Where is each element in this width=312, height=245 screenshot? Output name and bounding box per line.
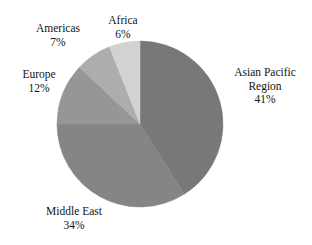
pie-slices-group xyxy=(57,41,223,207)
pie-label-americas-value: 7% xyxy=(25,36,91,50)
pie-label-asian-pacific-region-value: 41% xyxy=(222,93,308,107)
pie-label-africa: Africa 6% xyxy=(95,14,151,41)
pie-label-europe: Europe 12% xyxy=(8,68,70,95)
pie-label-asian-pacific-region-name-line1: Asian Pacific xyxy=(222,66,308,80)
pie-label-asian-pacific-region-name-line2: Region xyxy=(222,80,308,94)
pie-label-africa-value: 6% xyxy=(95,28,151,42)
pie-label-middle-east-value: 34% xyxy=(24,219,124,233)
pie-label-middle-east-name: Middle East xyxy=(24,205,124,219)
pie-label-africa-name: Africa xyxy=(95,14,151,28)
pie-chart-figure: Asian Pacific Region 41% Middle East 34%… xyxy=(0,0,312,245)
pie-label-americas: Americas 7% xyxy=(25,22,91,49)
pie-chart-page: Asian Pacific Region 41% Middle East 34%… xyxy=(0,0,312,245)
pie-label-europe-name: Europe xyxy=(8,68,70,82)
pie-label-asian-pacific-region: Asian Pacific Region 41% xyxy=(222,66,308,107)
pie-label-americas-name: Americas xyxy=(25,22,91,36)
pie-label-europe-value: 12% xyxy=(8,82,70,96)
pie-label-middle-east: Middle East 34% xyxy=(24,205,124,232)
